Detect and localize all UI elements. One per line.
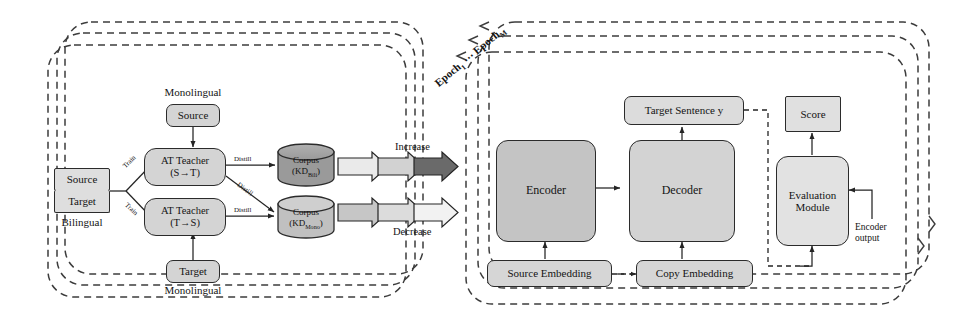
flow-arrow-increase bbox=[338, 152, 458, 181]
node-target-sentence[interactable]: Target Sentence y bbox=[624, 96, 744, 125]
diagram-canvas: Monolingual Source Source Target Bilingu… bbox=[0, 0, 962, 318]
at-teacher-s-to-t-line2: (S→T) bbox=[170, 167, 200, 179]
corpus-mono-line1: Corpus bbox=[293, 207, 319, 217]
node-bilingual-target[interactable]: Target bbox=[54, 190, 110, 213]
feedback-arrowhead bbox=[800, 246, 812, 266]
node-at-teacher-s-to-t[interactable]: AT Teacher (S→T) bbox=[144, 148, 226, 186]
corpus-bili-line2: (KDBili) bbox=[292, 166, 320, 179]
node-evaluation-module[interactable]: Evaluation Module bbox=[776, 156, 849, 246]
evaluation-module-line1: Evaluation bbox=[789, 189, 837, 201]
flow-arrow-decrease bbox=[338, 198, 458, 227]
node-copy-embedding[interactable]: Copy Embedding bbox=[636, 260, 753, 287]
monolingual-source-caption: Monolingual bbox=[159, 86, 227, 98]
encoder-output-label: Encoder output bbox=[855, 222, 887, 245]
epoch-leader-ticks-right bbox=[918, 216, 935, 254]
flow-label-decrease: Decrease bbox=[393, 226, 431, 237]
evaluation-module-line2: Module bbox=[795, 201, 829, 213]
edge-label-distill-bottom: Distill bbox=[234, 206, 252, 214]
encoder-output-line1: Encoder bbox=[855, 222, 887, 233]
node-monolingual-target[interactable]: Target bbox=[166, 260, 220, 283]
node-at-teacher-t-to-s[interactable]: AT Teacher (T→S) bbox=[144, 198, 226, 236]
node-monolingual-source[interactable]: Source bbox=[166, 104, 220, 127]
monolingual-target-caption: Monolingual bbox=[159, 284, 227, 296]
edge-encoder-output-to-evaluation bbox=[849, 190, 872, 219]
corpus-bili-line1: Corpus bbox=[293, 155, 319, 165]
node-source-embedding[interactable]: Source Embedding bbox=[487, 260, 612, 287]
at-teacher-s-to-t-line1: AT Teacher bbox=[161, 155, 209, 167]
corpus-mono-text[interactable]: Corpus (KDMono) bbox=[278, 202, 334, 236]
node-score[interactable]: Score bbox=[785, 96, 841, 132]
node-encoder[interactable]: Encoder bbox=[496, 140, 596, 242]
flow-label-increase: Increase bbox=[395, 141, 430, 152]
edge-label-distill-top: Distill bbox=[234, 155, 252, 163]
node-bilingual-source[interactable]: Source bbox=[54, 168, 110, 191]
corpus-bili-text[interactable]: Corpus (KDBili) bbox=[278, 150, 334, 184]
node-decoder[interactable]: Decoder bbox=[629, 140, 735, 242]
corpus-mono-line2: (KDMono) bbox=[289, 218, 323, 231]
at-teacher-t-to-s-line2: (T→S) bbox=[170, 217, 200, 229]
encoder-output-line2: output bbox=[855, 233, 887, 244]
edge-feedback-arrow-into-evaluation bbox=[800, 246, 812, 266]
at-teacher-t-to-s-line1: AT Teacher bbox=[161, 205, 209, 217]
bilingual-caption: Bilingual bbox=[48, 216, 116, 228]
